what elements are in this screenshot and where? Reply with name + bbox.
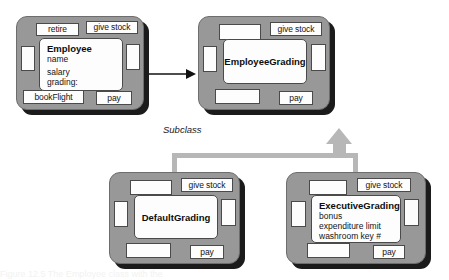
port-default-grading-bottom-right[interactable]: pay — [190, 245, 224, 259]
port-employee-grading-bottom-left[interactable] — [215, 89, 260, 104]
class-node-employee[interactable]: retire give stock bookFlight pay Employe… — [16, 16, 144, 110]
port-executive-grading-bottom-right[interactable]: pay — [373, 245, 405, 259]
port-default-grading-right[interactable] — [221, 199, 236, 226]
port-employee-grading-right[interactable] — [311, 44, 326, 71]
port-employee-bottom-left[interactable]: bookFlight — [23, 90, 84, 104]
generalization-branch-right — [353, 153, 358, 173]
port-executive-grading-top-right[interactable]: give stock — [357, 178, 411, 192]
class-body-employee: Employee name salary grading: — [39, 38, 123, 91]
generalization-crossbar — [172, 153, 358, 158]
association-arrowhead — [186, 69, 196, 79]
class-body-executive-grading: ExecutiveGrading bonus expenditure limit… — [311, 195, 401, 243]
class-attribute: salary — [47, 67, 122, 77]
generalization-branch-left — [172, 153, 177, 173]
port-employee-grading-bottom-right[interactable]: pay — [279, 91, 313, 105]
class-node-default-grading[interactable]: give stock pay DefaultGrading — [109, 172, 240, 264]
generalization-arrowhead — [326, 128, 352, 144]
port-employee-top-right[interactable]: give stock — [86, 21, 138, 34]
class-name-executive-grading: ExecutiveGrading — [319, 200, 400, 211]
port-employee-right[interactable] — [126, 44, 140, 70]
port-default-grading-top-left[interactable] — [130, 180, 172, 195]
class-name-default-grading: DefaultGrading — [142, 212, 211, 223]
class-node-employee-grading[interactable]: give stock pay EmployeeGrading — [198, 16, 330, 110]
port-employee-grading-left[interactable] — [203, 46, 217, 72]
port-default-grading-bottom-left[interactable] — [126, 243, 171, 258]
class-attribute: bonus — [319, 211, 400, 221]
port-executive-grading-left[interactable] — [291, 201, 306, 227]
class-node-executive-grading[interactable]: give stock pay ExecutiveGrading bonus ex… — [286, 172, 426, 264]
port-default-grading-top-right[interactable]: give stock — [181, 178, 233, 192]
class-attribute: expenditure limit — [319, 221, 400, 231]
uml-class-diagram: Subclass retire give stock bookFlight pa… — [0, 0, 449, 280]
class-body-employee-grading: EmployeeGrading — [223, 39, 307, 84]
port-employee-grading-top-left[interactable] — [219, 24, 261, 40]
port-employee-left[interactable] — [21, 46, 35, 71]
class-attribute: name — [47, 54, 122, 64]
subclass-label: Subclass — [163, 124, 202, 135]
port-employee-bottom-right[interactable]: pay — [96, 91, 132, 105]
class-name-employee-grading: EmployeeGrading — [224, 56, 305, 67]
figure-caption: Figure 12.5 The Employee class with the — [0, 269, 449, 280]
class-name-employee: Employee — [47, 43, 122, 54]
port-default-grading-left[interactable] — [114, 201, 128, 227]
port-executive-grading-right[interactable] — [404, 199, 419, 226]
port-executive-grading-bottom-left[interactable] — [307, 243, 350, 258]
class-body-default-grading: DefaultGrading — [134, 195, 218, 239]
port-employee-top-left[interactable]: retire — [36, 23, 79, 36]
port-employee-grading-top-right[interactable]: give stock — [270, 22, 322, 36]
port-executive-grading-top-left[interactable] — [309, 180, 347, 195]
class-attribute: grading: — [47, 77, 122, 87]
class-attribute: washroom key # — [319, 231, 400, 241]
